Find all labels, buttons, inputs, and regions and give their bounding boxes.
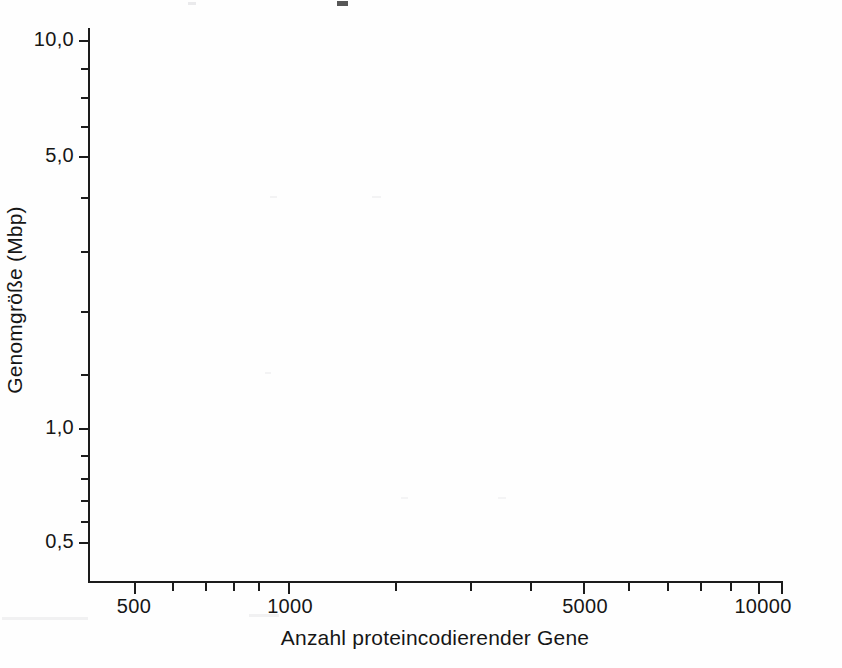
- y-tick-minor: [81, 251, 89, 253]
- y-tick-major: [79, 428, 89, 430]
- x-tick-minor: [395, 583, 397, 591]
- x-tick-minor: [628, 583, 630, 591]
- y-tick-minor: [81, 455, 89, 457]
- x-axis-line: [88, 581, 783, 583]
- chart-figure: 10,0 5,0 1,0 0,5 500 1000 5000 10000 Gen…: [0, 0, 842, 668]
- x-tick-major: [134, 583, 136, 594]
- x-tick-label: 10000: [734, 595, 791, 618]
- scan-artifact: [188, 2, 196, 5]
- x-tick-minor: [700, 583, 702, 591]
- x-tick-minor: [667, 583, 669, 591]
- x-axis-title-text: Anzahl proteincodierender Gene: [281, 626, 589, 649]
- y-tick-major: [79, 156, 89, 158]
- y-axis-title-text: Genomgröße (Mbp): [3, 206, 27, 394]
- y-tick-major: [79, 542, 89, 544]
- y-tick-minor: [81, 68, 89, 70]
- x-tick-label: 5000: [562, 595, 608, 618]
- y-axis-title: Genomgröße (Mbp): [0, 0, 30, 600]
- x-tick-minor: [730, 583, 732, 591]
- y-tick-minor: [81, 478, 89, 480]
- x-tick-minor: [172, 583, 174, 591]
- plot-area: [88, 28, 782, 582]
- y-tick-label: 5,0: [45, 144, 74, 167]
- y-tick-minor: [81, 97, 89, 99]
- y-tick-minor: [81, 521, 89, 523]
- y-tick-minor: [81, 500, 89, 502]
- x-tick-major: [288, 583, 290, 594]
- x-tick-label: 500: [117, 595, 151, 618]
- y-tick-minor: [81, 197, 89, 199]
- scan-artifact: [2, 617, 88, 620]
- x-tick-minor: [205, 583, 207, 591]
- y-tick-label: 10,0: [34, 28, 74, 51]
- x-axis-title: Anzahl proteincodierender Gene: [88, 626, 782, 650]
- x-tick-major: [583, 583, 585, 594]
- x-tick-major: [758, 583, 760, 594]
- x-tick-label: 1000: [267, 595, 313, 618]
- scan-artifact: [337, 1, 348, 6]
- y-tick-minor: [81, 311, 89, 313]
- x-tick-minor: [258, 583, 260, 591]
- y-tick-label: 1,0: [45, 416, 74, 439]
- x-tick-minor: [530, 583, 532, 591]
- x-tick-minor: [470, 583, 472, 591]
- x-tick-minor: [233, 583, 235, 591]
- y-tick-minor: [81, 374, 89, 376]
- y-tick-label: 0,5: [45, 530, 74, 553]
- x-axis-end-tick: [781, 583, 783, 594]
- y-tick-minor: [81, 126, 89, 128]
- y-tick-major: [79, 40, 89, 42]
